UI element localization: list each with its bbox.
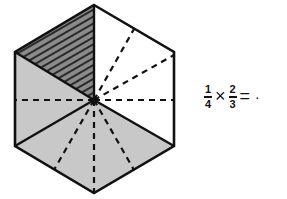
denominator: 3 — [229, 99, 235, 110]
fraction-equation: 1 4 × 2 3 = · — [204, 84, 260, 110]
center-point — [92, 98, 97, 103]
denominator: 4 — [205, 99, 211, 110]
fraction-two-thirds: 2 3 — [229, 84, 237, 110]
equals-sign: = — [240, 86, 251, 107]
numerator: 2 — [229, 84, 235, 95]
numerator: 1 — [205, 84, 211, 95]
answer-blank: · — [255, 89, 260, 105]
hexagon-fraction-diagram — [0, 0, 190, 199]
fraction-one-quarter: 1 4 — [204, 84, 212, 110]
times-sign: × — [215, 86, 226, 107]
